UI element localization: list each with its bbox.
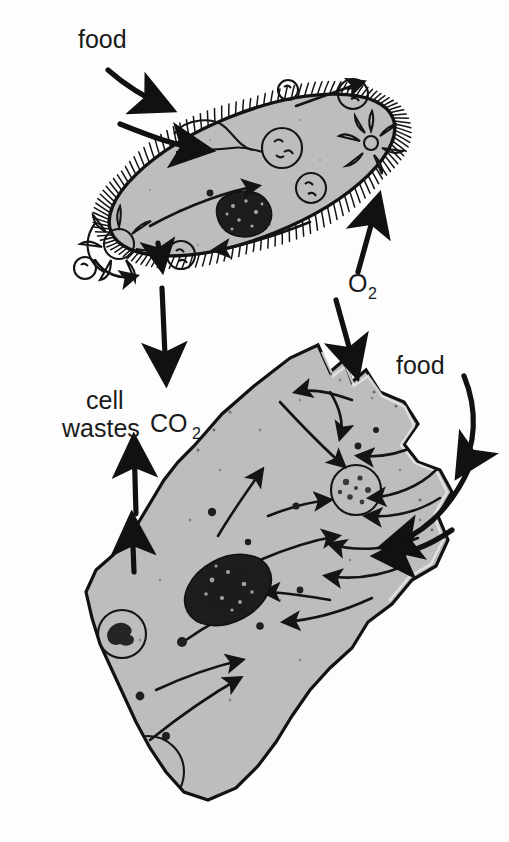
label-food-right: food [396,351,445,379]
label-co2-subscript: 2 [192,425,201,442]
label-food-top: food [78,25,127,53]
label-oxygen-text: O [348,269,367,297]
label-co2-text: CO [150,409,188,437]
micronucleus [207,190,214,197]
cilium [207,111,208,127]
cell-exchange-diagram: food food O 2 CO 2 cell wastes [0,0,509,842]
label-oxygen-subscript: 2 [368,285,377,302]
figure-canvas: food food O 2 CO 2 cell wastes [0,0,509,842]
label-cell-wastes-line1: cell [86,386,124,414]
label-cell-wastes-line2: wastes [61,414,140,442]
cilium [296,224,297,240]
